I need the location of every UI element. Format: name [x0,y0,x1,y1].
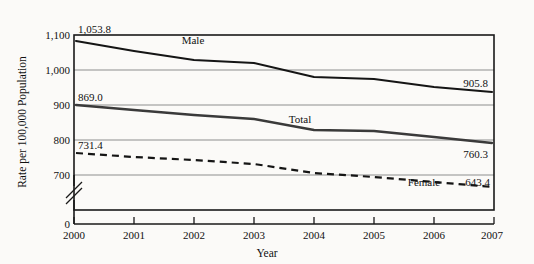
xtick-label-2003: 2003 [243,229,266,241]
x-axis-title: Year [256,247,277,259]
x-tick-labels: 2000 2001 2002 2003 2004 2005 2006 2007 [63,229,504,241]
ytick-label-800: 800 [54,134,71,146]
xtick-label-2000: 2000 [63,229,86,241]
value-label-female-end: 643.4 [465,176,490,188]
ytick-label-900: 900 [54,99,71,111]
xtick-label-2005: 2005 [363,229,386,241]
xtick-label-2004: 2004 [303,229,326,241]
series-line-total [76,105,492,143]
ytick-label-700: 700 [54,169,71,181]
value-label-female-start: 731.4 [78,139,103,151]
xtick-label-2001: 2001 [123,229,145,241]
series-label-male: Male [182,34,205,46]
y-axis-title: Rate per 100,000 Population [16,56,29,188]
series-label-total: Total [289,113,311,125]
value-label-total-end: 760.3 [463,148,488,160]
line-chart: 1,100 1,000 900 800 700 0 2000 2001 2002… [0,0,534,264]
ytick-label-1000: 1,000 [45,64,70,76]
series-line-male [76,41,492,92]
xtick-label-2007: 2007 [481,229,504,241]
series-label-female: Female [408,176,440,188]
chart-figure: 1,100 1,000 900 800 700 0 2000 2001 2002… [0,0,534,264]
value-label-total-start: 869.0 [78,91,103,103]
y-tick-labels: 1,100 1,000 900 800 700 0 [45,29,70,230]
series-lines [76,41,492,187]
value-label-male-end: 905.8 [463,77,488,89]
xtick-label-2006: 2006 [423,229,446,241]
xtick-label-2002: 2002 [183,229,205,241]
value-label-male-start: 1,053.8 [78,23,112,35]
series-labels: Male Total Female [182,34,441,188]
x-tickmarks [74,217,494,224]
ytick-label-1100: 1,100 [45,29,70,41]
